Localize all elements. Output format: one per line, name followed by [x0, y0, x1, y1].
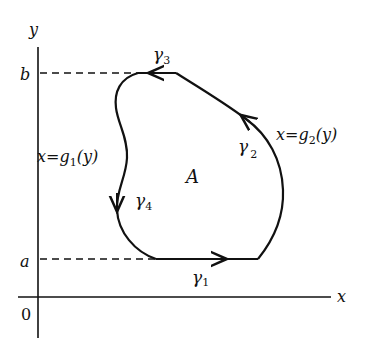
- left-boundary-equation: x=g1(y): [37, 147, 98, 169]
- gamma2-label: γ2: [238, 136, 257, 161]
- green-theorem-diagram: y x 0 b a A γ3 γ2 γ4 γ1 x=g1(y) x=g2(y): [0, 0, 384, 356]
- gamma1-label: γ1: [192, 267, 209, 289]
- y-axis-label: y: [28, 20, 39, 39]
- gamma3-label: γ3: [153, 44, 170, 67]
- right-boundary-equation: x=g2(y): [276, 125, 337, 147]
- b-label: b: [20, 65, 30, 84]
- origin-label: 0: [21, 305, 31, 324]
- gamma4-curve: [116, 73, 156, 259]
- region-label: A: [184, 166, 199, 187]
- gamma2-arrow-icon: [242, 116, 250, 122]
- x-axis-label: x: [337, 287, 346, 306]
- a-label: a: [20, 252, 30, 271]
- gamma4-label: γ4: [135, 190, 152, 213]
